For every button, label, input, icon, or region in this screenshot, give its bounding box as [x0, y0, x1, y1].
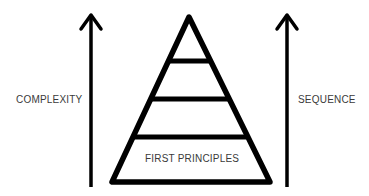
complexity-label: COMPLEXITY — [16, 94, 82, 105]
first-principles-label: FIRST PRINCIPLES — [145, 153, 237, 164]
complexity-up-arrow-icon — [81, 15, 101, 187]
pyramid-diagram: COMPLEXITY SEQUENCE FIRST PRINCIPLES — [0, 0, 369, 196]
sequence-label: SEQUENCE — [298, 94, 356, 105]
sequence-up-arrow-icon — [277, 15, 297, 187]
